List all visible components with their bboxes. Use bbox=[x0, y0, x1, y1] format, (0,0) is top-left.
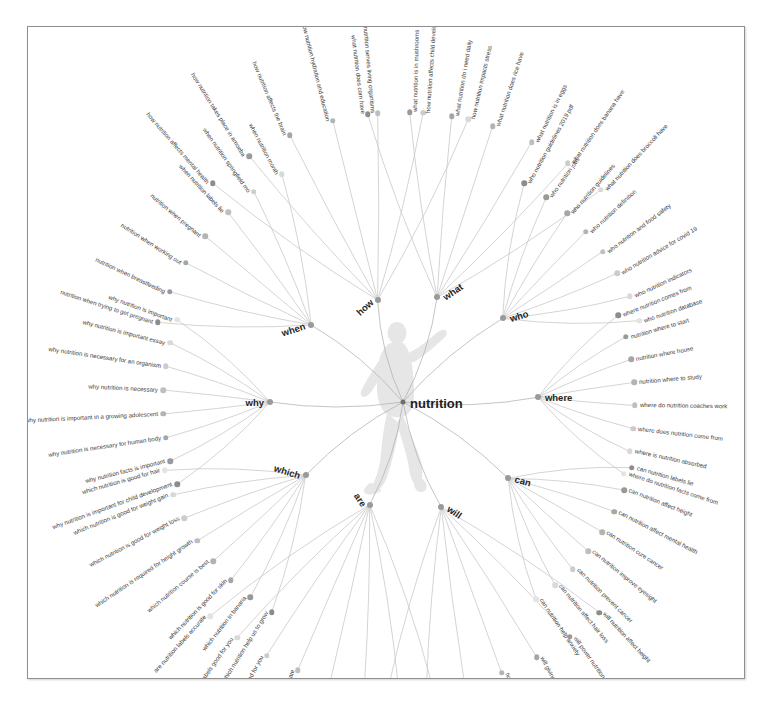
branch-label-why[interactable]: why bbox=[246, 398, 264, 408]
leaf-node-can-5[interactable] bbox=[570, 566, 576, 572]
leaf-node-which-6[interactable] bbox=[170, 492, 176, 498]
leaf-node-when-4[interactable] bbox=[225, 210, 231, 216]
branch-label-where[interactable]: where bbox=[545, 394, 572, 404]
leaf-node-why-2[interactable] bbox=[163, 435, 169, 441]
leaf-node-are-7[interactable] bbox=[208, 613, 214, 619]
leaf-node-why-3[interactable] bbox=[161, 411, 167, 417]
leaf-node-why-7[interactable] bbox=[175, 317, 181, 323]
leaf-node-can-0[interactable] bbox=[629, 465, 635, 471]
branch-hub-what[interactable] bbox=[434, 294, 440, 300]
leaf-node-which-7[interactable] bbox=[162, 468, 168, 474]
branch-hub-how[interactable] bbox=[375, 297, 381, 303]
top-cutoff-strip: ·· ···· ·· ··· ·· ····· ··· ·· ·· ···· ·… bbox=[0, 0, 773, 16]
leaf-node-why-4[interactable] bbox=[161, 387, 167, 393]
leaf-node-which-2[interactable] bbox=[228, 578, 234, 584]
center-node-label[interactable]: nutrition bbox=[410, 397, 463, 410]
leaf-node-why-5[interactable] bbox=[163, 363, 169, 369]
leaf-node-who-2[interactable] bbox=[564, 211, 570, 217]
leaf-node-who-7[interactable] bbox=[637, 318, 643, 324]
leaf-node-which-5[interactable] bbox=[181, 516, 187, 522]
branch-hub-why[interactable] bbox=[267, 399, 273, 405]
leaf-node-are-3[interactable] bbox=[328, 678, 334, 679]
leaf-node-can-1[interactable] bbox=[621, 487, 627, 493]
leaf-node-who-5[interactable] bbox=[615, 270, 621, 276]
leaf-node-where-1[interactable] bbox=[623, 334, 629, 340]
mindmap-card: nutritionhowhow nutrition affects mental… bbox=[27, 26, 745, 679]
mindmap-stage: nutritionhowhow nutrition affects mental… bbox=[28, 27, 744, 678]
branch-hub-where[interactable] bbox=[535, 394, 541, 400]
leaf-node-where-3[interactable] bbox=[631, 380, 637, 386]
branch-hub-when[interactable] bbox=[308, 322, 314, 328]
leaf-node-where-0[interactable] bbox=[615, 312, 621, 318]
leaf-node-can-2[interactable] bbox=[611, 509, 617, 515]
leaf-node-what-6[interactable] bbox=[598, 187, 604, 193]
leaf-node-why-6[interactable] bbox=[168, 340, 174, 346]
center-node-dot[interactable] bbox=[401, 400, 406, 405]
leaf-node-which-0[interactable] bbox=[269, 610, 275, 616]
leaf-node-how-0[interactable] bbox=[210, 180, 216, 186]
branch-hub-who[interactable] bbox=[500, 315, 506, 321]
leaf-node-how-1[interactable] bbox=[247, 153, 253, 159]
leaf-node-where-7[interactable] bbox=[621, 471, 627, 477]
top-cutoff-text: ·· ···· ·· ··· ·· ····· ··· ·· ·· ···· ·… bbox=[335, 0, 636, 5]
leaf-node-will-1[interactable] bbox=[567, 634, 573, 640]
leaf-node-why-1[interactable] bbox=[168, 458, 174, 464]
branch-hub-which[interactable] bbox=[303, 472, 309, 478]
leaf-node-why-0[interactable] bbox=[175, 481, 181, 487]
leaf-node-who-6[interactable] bbox=[627, 294, 633, 300]
leaf-node-which-3[interactable] bbox=[210, 559, 216, 565]
leaf-node-when-0[interactable] bbox=[155, 320, 161, 326]
leaf-node-where-4[interactable] bbox=[632, 403, 638, 409]
branch-hub-will[interactable] bbox=[438, 504, 444, 510]
leaf-node-are-6[interactable] bbox=[234, 635, 240, 641]
branch-hub-can[interactable] bbox=[505, 475, 511, 481]
leaf-node-which-4[interactable] bbox=[195, 538, 201, 544]
leaf-node-where-6[interactable] bbox=[627, 449, 633, 455]
leaf-node-who-4[interactable] bbox=[600, 249, 606, 255]
leaf-node-which-1[interactable] bbox=[248, 595, 254, 601]
leaf-node-where-5[interactable] bbox=[631, 426, 637, 432]
leaf-node-when-2[interactable] bbox=[183, 260, 189, 266]
leaf-node-where-2[interactable] bbox=[628, 357, 634, 363]
leaf-node-when-3[interactable] bbox=[203, 233, 209, 239]
leaf-node-when-1[interactable] bbox=[167, 289, 173, 295]
